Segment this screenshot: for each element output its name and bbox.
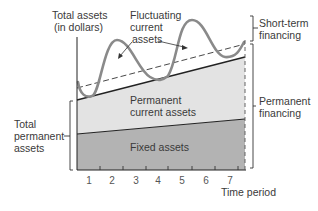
total-permanent-label-line2: permanent: [14, 130, 64, 142]
y-axis-title-line1: Total assets: [52, 9, 107, 21]
fluctuating-label-line3: assets: [132, 33, 162, 45]
fluctuating-label-line2: current: [130, 21, 163, 33]
tick-label-4: 4: [155, 175, 161, 186]
y-axis-title-line2: (in dollars): [54, 21, 103, 33]
permanent-financing-label-line2: financing: [259, 107, 301, 119]
fluctuating-label-line1: Fluctuating: [130, 9, 182, 21]
total-permanent-bracket: [64, 101, 73, 170]
short-term-bracket: [250, 16, 258, 41]
fixed-assets-label: Fixed assets: [130, 141, 189, 153]
total-permanent-label-line1: Total: [14, 118, 36, 130]
permanent-financing-bracket: [250, 44, 256, 168]
tick-label-5: 5: [179, 175, 185, 186]
tick-label-1: 1: [86, 175, 92, 186]
tick-label-6: 6: [203, 175, 209, 186]
tick-label-7: 7: [227, 175, 233, 186]
x-axis-title: Time period: [221, 186, 276, 198]
permanent-financing-label-line1: Permanent: [259, 95, 310, 107]
total-permanent-label-line3: assets: [14, 142, 44, 154]
fluct-arrowhead-right: [182, 45, 188, 50]
short-term-label-line2: financing: [259, 29, 301, 41]
tick-label-3: 3: [133, 175, 139, 186]
tick-label-2: 2: [109, 175, 115, 186]
permanent-current-label-line2: current assets: [130, 106, 196, 118]
permanent-current-label-line1: Permanent: [130, 94, 181, 106]
financing-diagram: 1 2 3 4 5 6 7 Time period Total assets (…: [0, 0, 318, 211]
short-term-label-line1: Short-term: [259, 17, 309, 29]
